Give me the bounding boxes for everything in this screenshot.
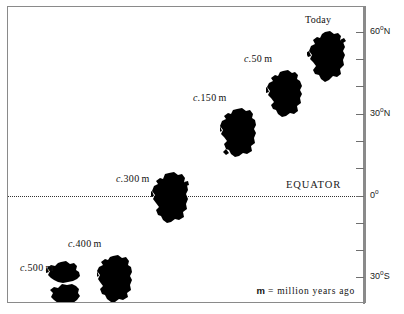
equator-label: EQUATOR xyxy=(286,179,341,190)
lat-tick-20s xyxy=(356,250,364,251)
lat-label-60n: 60oN xyxy=(370,26,390,36)
ireland-shape-today xyxy=(307,31,347,83)
lat-tick-10n xyxy=(356,168,364,169)
era-label-c300: c.300m xyxy=(116,173,150,184)
lat-tick-20n xyxy=(356,141,364,142)
lat-tick-0 xyxy=(356,196,364,197)
ireland-shape-c500-south xyxy=(48,284,82,302)
footnote-text: = million years ago xyxy=(268,286,355,296)
era-label-c50: c.50m xyxy=(244,53,272,64)
lat-label-30s: 30oS xyxy=(370,271,390,281)
footnote-symbol: m xyxy=(256,285,264,296)
lat-tick-30s xyxy=(356,277,364,278)
plot-frame: EQUATOR Today c.50m xyxy=(7,6,366,303)
era-label-c500: c.500m xyxy=(20,262,54,273)
lat-tick-60n xyxy=(356,32,364,33)
latitude-axis xyxy=(363,7,365,304)
lat-label-0: 0o xyxy=(370,190,379,200)
map-plot-area: EQUATOR Today c.50m xyxy=(8,7,365,302)
era-label-c150: c.150m xyxy=(193,92,227,103)
ireland-shape-c400 xyxy=(97,255,133,302)
lat-label-30n: 30oN xyxy=(370,108,390,118)
lat-tick-10s xyxy=(356,223,364,224)
era-label-today: Today xyxy=(305,14,331,25)
lat-tick-40n xyxy=(356,86,364,87)
ireland-shape-c300 xyxy=(151,172,189,224)
lat-tick-50n xyxy=(356,59,364,60)
lat-tick-30n xyxy=(356,114,364,115)
era-label-c400: c.400m xyxy=(68,238,102,249)
latitude-drift-figure: EQUATOR Today c.50m xyxy=(0,0,404,314)
ireland-shape-c50 xyxy=(266,70,304,118)
ireland-shape-c150 xyxy=(220,108,258,158)
footnote-legend: m = million years ago xyxy=(256,285,355,296)
